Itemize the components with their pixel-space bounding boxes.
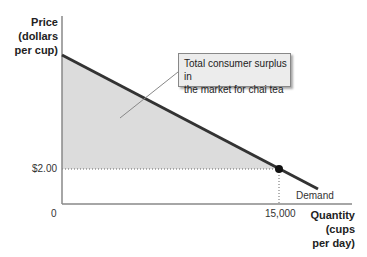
price-tick-label: $2.00: [32, 163, 57, 174]
origin-label: 0: [51, 208, 57, 219]
x-axis-label: Quantity (cups per day): [300, 208, 355, 250]
market-point: [275, 165, 283, 173]
x-axis-label-line: Quantity: [300, 208, 355, 222]
consumer-surplus-annotation: Total consumer surplus in the market for…: [178, 53, 291, 87]
x-axis-label-line: (cups: [300, 222, 355, 236]
demand-label: Demand: [296, 190, 334, 201]
annotation-line: Total consumer surplus in: [184, 57, 290, 83]
quantity-tick-label: 15,000: [265, 208, 296, 219]
y-axis-label: Price (dollars per cup): [2, 15, 58, 57]
annotation-line: the market for chai tea: [184, 83, 290, 96]
y-axis-label-line: Price: [2, 15, 58, 29]
x-axis-label-line: per day): [300, 236, 355, 250]
y-axis-label-line: per cup): [2, 43, 58, 57]
y-axis-label-line: (dollars: [2, 29, 58, 43]
